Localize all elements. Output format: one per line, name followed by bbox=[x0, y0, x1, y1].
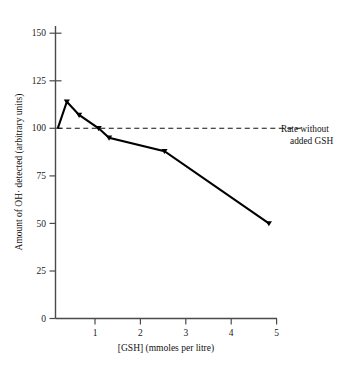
x-tick-label-4: 4 bbox=[229, 328, 234, 338]
y-tick-label-75: 75 bbox=[37, 171, 47, 181]
data-point-markers bbox=[64, 99, 272, 226]
y-tick-label-50: 50 bbox=[37, 219, 47, 229]
chart-figure: 0 25 50 75 100 125 150 1 2 3 4 5 Rate wi… bbox=[0, 0, 340, 365]
x-tick-label-5: 5 bbox=[274, 328, 279, 338]
y-axis-tick-labels: 0 25 50 75 100 125 150 bbox=[32, 28, 47, 323]
y-tick-label-100: 100 bbox=[32, 123, 47, 133]
annotation-line-2: added GSH bbox=[290, 136, 333, 146]
x-tick-label-3: 3 bbox=[183, 328, 188, 338]
reference-line-annotation: Rate without added GSH bbox=[281, 124, 333, 146]
y-tick-label-25: 25 bbox=[37, 266, 47, 276]
y-axis-title: Amount of OH· detected (arbitrary units) bbox=[14, 94, 25, 251]
data-point-marker bbox=[266, 221, 272, 226]
x-axis-title: [GSH] (mmoles per litre) bbox=[118, 343, 214, 354]
x-axis-tick-labels: 1 2 3 4 5 bbox=[93, 328, 280, 338]
data-series-line bbox=[58, 102, 269, 224]
x-axis-ticks bbox=[95, 319, 277, 325]
annotation-line-1: Rate without bbox=[281, 124, 329, 134]
x-tick-label-2: 2 bbox=[138, 328, 143, 338]
y-tick-label-125: 125 bbox=[32, 76, 47, 86]
x-tick-label-1: 1 bbox=[93, 328, 98, 338]
y-tick-label-0: 0 bbox=[41, 314, 46, 324]
y-tick-label-150: 150 bbox=[32, 28, 47, 38]
